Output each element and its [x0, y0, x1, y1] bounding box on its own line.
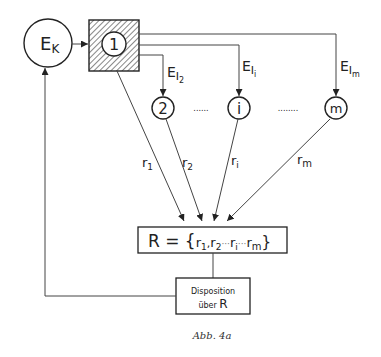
node-1: 1: [89, 20, 139, 71]
edge-label-rm: rm: [297, 152, 312, 169]
edge-rm: [227, 119, 330, 221]
node-ek-label: EK: [40, 33, 60, 56]
node-2-label: 2: [158, 100, 168, 118]
node-2: 2: [152, 97, 174, 119]
figure-caption: Abb. 4a: [192, 330, 232, 341]
edge-label-eii: EIi: [242, 58, 256, 79]
ellipsis-right: ........: [278, 104, 298, 113]
node-i: i: [228, 97, 250, 119]
node-m: m: [325, 97, 347, 119]
disposition-box: Disposition über R: [176, 278, 250, 314]
edge-label-ri: ri: [231, 153, 239, 170]
edge-label-ei2: EI2: [167, 64, 184, 85]
diagram-canvas: EK 1 EI2 EIi EIm 2 ...... i ........ m r…: [0, 0, 381, 357]
edge-ri: [214, 119, 238, 221]
node-1-label: 1: [109, 35, 119, 54]
set-box: R = {r1,r2···ri···rm}: [138, 227, 287, 253]
ellipsis-left: ......: [193, 104, 208, 113]
edge-1-to-2: [139, 55, 163, 96]
edge-r1: [117, 71, 184, 221]
edge-1-to-i: [139, 45, 239, 96]
edge-label-r2: r2: [182, 155, 193, 172]
edge-label-eim: EIm: [340, 58, 360, 79]
node-ek: EK: [24, 19, 72, 67]
edge-r2: [166, 119, 202, 221]
disposition-line1: Disposition: [191, 287, 235, 296]
node-i-label: i: [237, 100, 241, 118]
edge-label-r1: r1: [142, 155, 153, 172]
edge-feedback-to-ek: [45, 68, 176, 296]
node-m-label: m: [330, 101, 343, 116]
